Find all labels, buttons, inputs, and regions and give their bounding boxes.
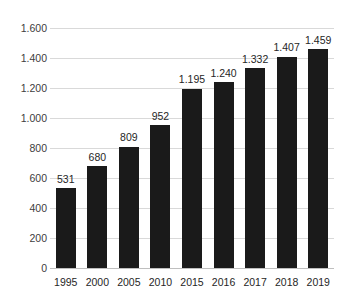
- bar[interactable]: [119, 147, 139, 268]
- y-axis-tick-label: 1.600: [0, 23, 47, 34]
- bar-slot: 1.407: [271, 28, 303, 268]
- bar-value-label: 1.459: [305, 35, 331, 46]
- x-axis-tick-label: 2017: [243, 277, 266, 288]
- bar-slot: 1.459: [302, 28, 334, 268]
- bar[interactable]: [182, 89, 202, 268]
- x-axis-tick-label: 2005: [117, 277, 140, 288]
- bar-slot: 531: [50, 28, 82, 268]
- bar-value-label: 952: [152, 111, 170, 122]
- gridline: [50, 268, 334, 269]
- x-axis-tick-label: 1995: [54, 277, 77, 288]
- bar[interactable]: [56, 188, 76, 268]
- bar[interactable]: [308, 49, 328, 268]
- bar-value-label: 1.332: [242, 54, 268, 65]
- y-axis-tick-label: 1.200: [0, 83, 47, 94]
- bar-value-label: 1.195: [179, 74, 205, 85]
- bar-slot: 1.240: [208, 28, 240, 268]
- y-axis-tick-label: 1.000: [0, 113, 47, 124]
- bar-value-label: 1.407: [274, 42, 300, 53]
- x-axis-tick-label: 2015: [180, 277, 203, 288]
- bar-slot: 809: [113, 28, 145, 268]
- bar-slot: 1.332: [239, 28, 271, 268]
- y-axis-tick-label: 1.400: [0, 53, 47, 64]
- bar-value-label: 680: [89, 152, 107, 163]
- bar-value-label: 1.240: [210, 68, 236, 79]
- bar-chart: 5316808099521.1951.2401.3321.4071.459 19…: [0, 0, 346, 305]
- x-axis-tick-label: 2016: [212, 277, 235, 288]
- y-axis-tick-label: 800: [0, 143, 47, 154]
- bar[interactable]: [87, 166, 107, 268]
- x-axis-tick-label: 2019: [307, 277, 330, 288]
- bar-slot: 1.195: [176, 28, 208, 268]
- y-axis-tick-label: 200: [0, 233, 47, 244]
- y-axis-tick-label: 0: [0, 263, 47, 274]
- bar[interactable]: [245, 68, 265, 268]
- bar[interactable]: [277, 57, 297, 268]
- bar-slot: 952: [145, 28, 177, 268]
- x-axis-tick-label: 2000: [86, 277, 109, 288]
- bar[interactable]: [150, 125, 170, 268]
- bar-value-label: 809: [120, 132, 138, 143]
- bar-slot: 680: [82, 28, 114, 268]
- bar-value-label: 531: [57, 174, 75, 185]
- bar[interactable]: [214, 82, 234, 268]
- x-axis-tick-label: 2010: [149, 277, 172, 288]
- y-axis-tick-label: 600: [0, 173, 47, 184]
- y-axis-tick-label: 400: [0, 203, 47, 214]
- x-axis-tick-label: 2018: [275, 277, 298, 288]
- bar-series: 5316808099521.1951.2401.3321.4071.459: [50, 28, 334, 268]
